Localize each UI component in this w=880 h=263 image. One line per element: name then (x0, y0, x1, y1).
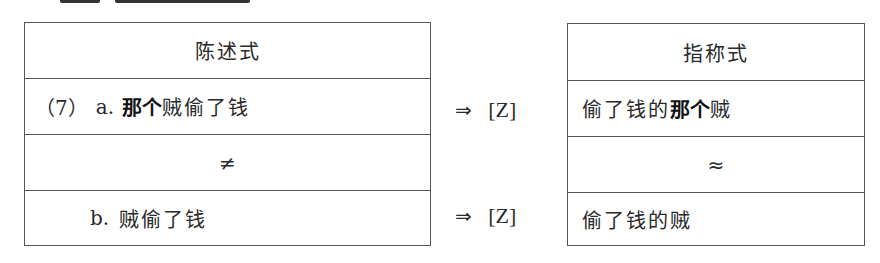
heading-fragment (115, 0, 250, 3)
referential-row-a: 偷了钱的 那个 贼 (568, 80, 864, 136)
declarative-table: 陈述式 （7） a. 那个 贼偷了钱 ≠ b. 贼偷了钱 (24, 22, 431, 246)
row-b-text: 贼偷了钱 (119, 204, 207, 233)
row-a-suffix: 贼 (710, 94, 730, 123)
example-number: （7） (35, 92, 88, 121)
declarative-row-b: b. 贼偷了钱 (25, 190, 430, 245)
row-a-bold-text: 那个 (670, 94, 710, 123)
declarative-relation-row: ≠ (25, 134, 430, 190)
approx-equal-symbol: ≈ (708, 153, 725, 177)
referential-header: 指称式 (568, 24, 864, 80)
arrow-a-target: [Z] (488, 97, 516, 122)
referential-relation-row: ≈ (568, 136, 864, 192)
row-a-prefix: 偷了钱的 (582, 94, 670, 123)
referential-header-text: 指称式 (683, 38, 749, 67)
heading-fragment (60, 0, 100, 3)
cropped-heading (60, 0, 250, 4)
row-a-label: a. (96, 95, 114, 119)
declarative-header: 陈述式 (25, 23, 430, 78)
arrow-b-target: [Z] (488, 203, 516, 228)
row-a-text: 贼偷了钱 (162, 92, 250, 121)
arrow-a: ⇒ [Z] (455, 97, 516, 123)
implies-arrow-icon: ⇒ (455, 98, 472, 122)
not-equal-symbol: ≠ (219, 151, 236, 175)
declarative-header-text: 陈述式 (195, 36, 261, 65)
row-b-text: 偷了钱的贼 (582, 205, 692, 234)
arrow-b: ⇒ [Z] (455, 203, 516, 229)
referential-table: 指称式 偷了钱的 那个 贼 ≈ 偷了钱的贼 (567, 23, 865, 246)
implies-arrow-icon: ⇒ (455, 204, 472, 228)
referential-row-b: 偷了钱的贼 (568, 192, 864, 245)
declarative-row-a: （7） a. 那个 贼偷了钱 (25, 78, 430, 134)
row-b-label: b. (90, 206, 109, 230)
row-a-bold-text: 那个 (122, 92, 162, 121)
